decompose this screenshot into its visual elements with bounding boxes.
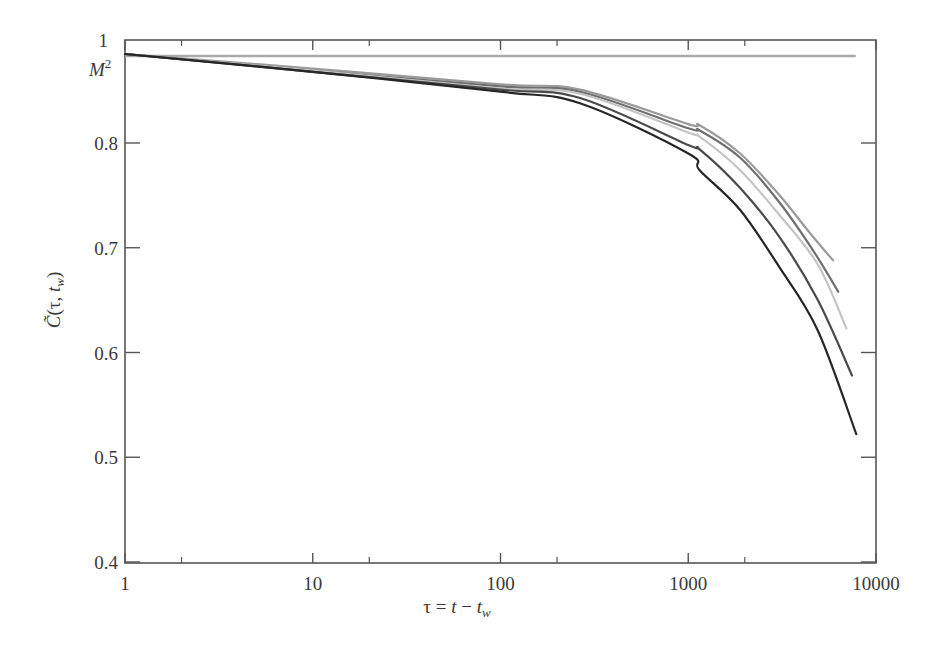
x-tick-label: 100 (486, 573, 515, 594)
data-series (125, 54, 856, 434)
y-tick-label: 0.6 (94, 343, 118, 364)
y-top-tick-label: 1 (99, 30, 109, 51)
svg-text:C̃(τ, tw): C̃(τ, tw) (43, 272, 67, 328)
plot-border (125, 40, 876, 563)
series-line-curve-3 (125, 54, 846, 328)
m-squared-label: M2 (88, 56, 111, 80)
x-axis-title: τ = t − tw (423, 596, 491, 620)
y-axis-title: C̃(τ, tw) (43, 272, 67, 328)
axis-ticks (125, 40, 876, 563)
correlation-decay-chart: 1101001000100000.40.50.60.70.8 1 M2 τ = … (0, 0, 946, 645)
m-squared-exponent: 2 (105, 56, 112, 71)
y-tick-label: 0.4 (94, 552, 118, 573)
y-tick-label: 0.7 (94, 238, 118, 259)
x-tick-label: 1 (120, 573, 130, 594)
m-squared-base: M (88, 59, 106, 80)
series-line-curve-5 (125, 54, 856, 434)
x-tick-label: 1000 (669, 573, 707, 594)
x-axis-title-tau: τ = (423, 596, 451, 617)
y-tick-label: 0.5 (94, 447, 118, 468)
y-tick-label: 0.8 (94, 133, 118, 154)
plot-frame (125, 40, 876, 563)
x-tick-label: 10 (303, 573, 322, 594)
x-tick-label: 10000 (852, 573, 900, 594)
